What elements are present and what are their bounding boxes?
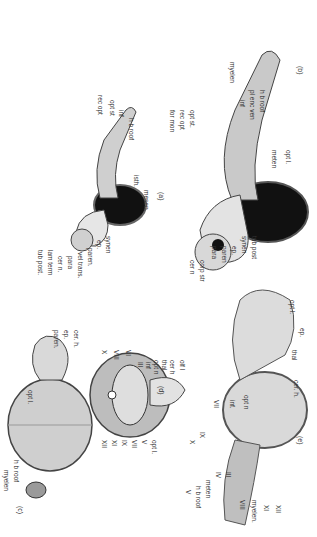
label-a-vel-trans: vel trans. (77, 252, 84, 278)
label-d-thal: thal (161, 360, 168, 370)
label-b-rec-opt: rec opt (179, 110, 186, 130)
label-e-X: X (189, 440, 196, 444)
label-e-VIII: VIII (239, 500, 246, 510)
label-b-synen: synen (241, 236, 248, 253)
label-d-cer-h: cer h (169, 360, 176, 374)
label-e-thal: thal (291, 350, 298, 360)
label-c-paren: paren. (53, 330, 60, 348)
label-b-hb-roof: h b roof (259, 90, 266, 112)
label-e-XII: XII (275, 505, 282, 513)
label-d-XI: XI (111, 440, 118, 446)
panel-d-caption: (d) (158, 386, 165, 395)
label-c-opt-l: opt l. (27, 390, 34, 404)
label-e-opt-l: opt l. (289, 300, 296, 314)
label-d-olf-l: olf l (179, 360, 186, 370)
label-e-hb-roof: h b roof (195, 486, 202, 508)
label-a-isth: isth. (133, 175, 140, 187)
label-b-meten: meten (271, 150, 278, 168)
label-e-ep: ep. (299, 328, 306, 337)
label-d-VI: VI (125, 350, 132, 356)
label-e-V: V (185, 490, 192, 494)
label-b-ep: ep. (231, 246, 238, 255)
label-c-myelen: myelen (3, 470, 10, 491)
label-a-lam-term: lam term (47, 250, 54, 275)
label-d-IX: IX (121, 440, 128, 446)
label-b-myelen: myelen (229, 62, 236, 83)
label-a-hb-roof: h b roof (128, 118, 135, 140)
label-d-VIII: VIII (113, 350, 120, 360)
panel-b-caption: (b) (297, 66, 304, 75)
panel-a-caption: (a) (158, 192, 165, 201)
label-e-inf: inf. (229, 400, 236, 409)
label-a-opt-st: opt st (109, 100, 116, 116)
label-a-para: para (67, 256, 74, 269)
label-b-pl-enc-ven: pl enc ven (249, 90, 256, 120)
panel-e-caption: (e) (297, 436, 304, 445)
label-d-III: III (137, 362, 144, 367)
label-d-V: V (141, 440, 148, 444)
label-d-opt-l: opt l. (151, 440, 158, 454)
label-a-synen: synen (105, 236, 112, 253)
label-a-inf: inf (118, 110, 125, 117)
label-d-inf: inf (145, 362, 152, 369)
label-e-meten: meten (205, 480, 212, 498)
label-c-cer-h: cer. h. (73, 330, 80, 348)
label-b-inf: inf (239, 100, 246, 107)
label-b-paren: paren (221, 246, 228, 263)
label-d-opt-n: opt n (153, 360, 160, 374)
label-d-X: X (101, 350, 108, 354)
label-e-myelen: myelen. (251, 500, 258, 523)
label-b-corp-str: corp str (199, 260, 206, 282)
label-d-VII: VII (131, 440, 138, 448)
label-a-mesen: mesen. (143, 190, 150, 211)
label-b-for-mon: for mon (169, 110, 176, 132)
label-a-rec-opt: rec opt (97, 95, 104, 115)
label-a-paren: paren. (87, 248, 94, 266)
label-d-XII: XII (101, 440, 108, 448)
label-a-ep: ep. (96, 240, 103, 249)
label-e-IV: IV (215, 472, 222, 478)
label-b-tub-post: tub post (251, 236, 258, 259)
label-a-cer-n: cer n. (57, 256, 64, 272)
label-e-XI: XI (263, 505, 270, 511)
label-c-ep: ep. (63, 330, 70, 339)
label-e-VII: VII (213, 400, 220, 408)
label-b-para: para (211, 246, 218, 259)
label-e-opt-n: opt n (243, 395, 250, 409)
label-a-tub-post: tub post. (37, 250, 44, 275)
panel-c-drawing (8, 336, 92, 498)
brain-development-figure: (b) (e) (a) (d) (c) opt l. meten h b roo… (0, 0, 317, 537)
label-e-cer-h: cer. h. (293, 380, 300, 398)
label-b-cer-n: cer n (189, 260, 196, 274)
label-e-III: III (225, 472, 232, 477)
label-c-hb-roof: h b roof (13, 460, 20, 482)
panel-c-caption: (c) (17, 506, 24, 514)
label-e-IX: IX (199, 432, 206, 438)
label-b-opt-l: opt l. (285, 150, 292, 164)
label-b-opt-st: opt st. (189, 110, 196, 128)
